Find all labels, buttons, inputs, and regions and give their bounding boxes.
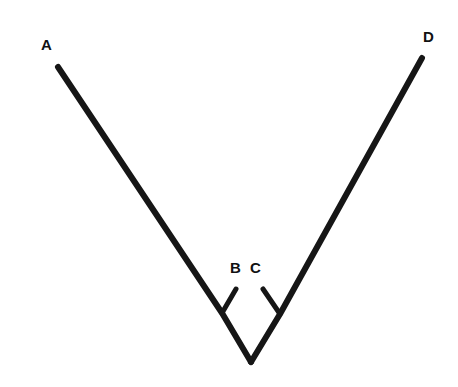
taxon-label-b: B <box>230 260 241 275</box>
taxon-label-a: A <box>41 37 52 52</box>
taxon-label-d: D <box>423 29 434 44</box>
taxon-label-c: C <box>250 260 261 275</box>
cladogram-svg <box>0 0 458 387</box>
cladogram-figure: A B C D <box>0 0 458 387</box>
